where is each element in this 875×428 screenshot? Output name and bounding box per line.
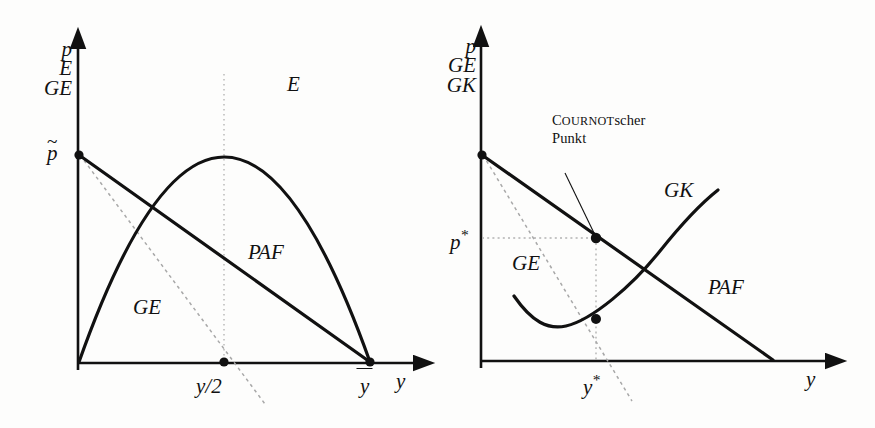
left-curve-label-GE: GE: [133, 295, 161, 320]
cournot-point-annotation: COURNOTscher Punkt: [552, 111, 645, 147]
star-accent-p: *: [461, 226, 469, 243]
left-x-axis-label: y: [396, 369, 405, 394]
bar-accent: [356, 368, 372, 370]
right-y-tick-label-p-star: p*: [450, 226, 469, 255]
cournot-annotation-line2: Punkt: [552, 129, 645, 147]
left-p-tilde-marker: [74, 150, 83, 159]
right-paf-intercept-marker: [477, 150, 486, 159]
left-x-tick-label-y-half: y/2: [196, 374, 222, 399]
right-x-tick-label-y-star: y*: [583, 371, 601, 400]
cournot-annotation-line1: COURNOTscher: [552, 111, 645, 129]
right-ge-dotted-line: [483, 155, 632, 401]
left-y-axis-label-ge: GE: [18, 79, 72, 98]
left-curve-label-E: E: [287, 72, 300, 97]
ge-gk-intersection-marker: [591, 314, 601, 324]
right-p-star-base: p: [450, 230, 461, 254]
right-curve-label-PAF: PAF: [708, 275, 744, 300]
cournot-annotation-smallcaps: OURNOT: [562, 114, 615, 128]
left-x-tick-label-y-bar: y: [360, 374, 369, 399]
star-accent-y: *: [593, 371, 601, 388]
left-y-half-marker: [219, 357, 228, 366]
left-y-bar-base: y: [360, 374, 369, 398]
right-y-axis-label-gk: GK: [424, 76, 476, 95]
cournot-annotation-initial: C: [552, 112, 562, 128]
left-p-tilde-label: ~ p: [47, 141, 58, 166]
left-ge-dotted-line: [80, 155, 265, 404]
tilde-accent: ~: [47, 131, 57, 153]
right-panel-graphics: [477, 44, 828, 401]
right-y-star-base: y: [583, 375, 592, 399]
right-curve-label-GK: GK: [664, 178, 693, 203]
left-panel-graphics: [74, 46, 416, 404]
figure-root: p E GE ~ p E PAF GE y/2 y y p GE GK p* C…: [0, 0, 875, 428]
left-y-bar-marker: [365, 357, 374, 366]
right-y-axis-label-stack: p GE GK: [424, 37, 476, 95]
right-curve-label-GE: GE: [512, 251, 540, 276]
right-curve-GK: [514, 190, 718, 327]
right-x-axis-label: y: [806, 367, 815, 392]
cournot-point-marker: [591, 233, 601, 243]
left-curve-label-PAF: PAF: [248, 240, 284, 265]
left-y-axis-label-stack: p E GE: [18, 40, 72, 98]
cournot-annotation-suffix: scher: [614, 112, 645, 128]
